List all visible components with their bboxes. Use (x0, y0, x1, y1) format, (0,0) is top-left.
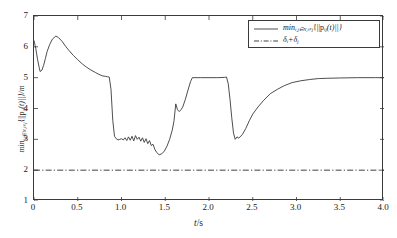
y-tick-label-3: 3 (6, 133, 28, 143)
legend-entry-min-distance: mini,j∈N,i≠j{||pij(t)||} (253, 23, 375, 35)
legend-min-subscript: i,j∈N,i≠j (295, 27, 313, 32)
y-tick-label-4: 4 (6, 103, 28, 113)
y-tick-label-1: 1 (6, 195, 28, 205)
x-tick-label-2-0: 2.0 (202, 202, 213, 212)
x-tick-label-3-0: 3.0 (290, 202, 301, 212)
y-tick-label-2: 2 (6, 164, 28, 174)
dashdot-line-sample (253, 36, 279, 46)
x-tick-label-3-5: 3.5 (334, 202, 345, 212)
legend-body-end: (t)||} (327, 23, 342, 32)
x-tick-label-0: 0 (31, 202, 36, 212)
y-tick-label-6: 6 (6, 41, 28, 51)
legend-label-threshold: δi+δj (283, 35, 299, 47)
y-axis-label: mini,j∈N,i≠j{||pij(t)||}/m (17, 29, 26, 209)
x-axis-label: t/s (0, 218, 397, 228)
solid-line-sample (253, 24, 279, 34)
y-tick-label-7: 7 (6, 10, 28, 20)
legend-entry-threshold: δi+δj (253, 35, 375, 47)
min-distance-series (34, 36, 384, 155)
x-tick-label-1-0: 1.0 (115, 202, 126, 212)
legend-min-text: min (283, 23, 295, 32)
legend-box: mini,j∈N,i≠j{||pij(t)||} δi+δj (248, 20, 380, 48)
x-label-t: t (194, 218, 197, 228)
chart-figure: mini,j∈N,i≠j{||pij(t)||}/m 7 6 5 4 3 2 1… (0, 0, 397, 238)
x-tick-label-0-5: 0.5 (71, 202, 82, 212)
y-tick-label-5: 5 (6, 72, 28, 82)
legend-delta-j-sub: j (297, 39, 298, 44)
legend-label-min-distance: mini,j∈N,i≠j{||pij(t)||} (283, 23, 342, 35)
x-tick-label-1-5: 1.5 (159, 202, 170, 212)
x-tick-label-4-0: 4.0 (377, 202, 388, 212)
legend-body: {||p (313, 23, 324, 32)
legend-delta-j: +δ (288, 35, 297, 44)
x-tick-label-2-5: 2.5 (246, 202, 257, 212)
y-label-body: {||p (17, 111, 26, 122)
